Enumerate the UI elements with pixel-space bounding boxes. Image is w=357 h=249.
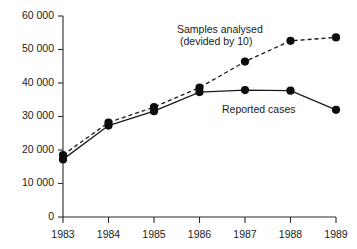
data-point: [286, 37, 294, 45]
series-line-reported-cases: [63, 90, 336, 159]
data-point: [241, 57, 249, 65]
x-tick-label-1989: 1989: [324, 228, 348, 240]
y-tick-label-50000: 50 000: [22, 42, 54, 54]
samples-annotation: Samples analysed (devided by 10): [177, 23, 263, 47]
x-tick-label-1988: 1988: [279, 228, 303, 240]
line-chart: 0 10 000 20 000 30 000 40 000 50 000 60 …: [0, 0, 357, 249]
data-point: [286, 87, 294, 95]
y-tick-group: [58, 16, 63, 217]
reported-annotation-line1: Reported cases: [222, 103, 296, 115]
x-tick-label-1986: 1986: [188, 228, 212, 240]
x-tick-labels: 1983 1984 1985 1986 1987 1988 1989: [51, 228, 348, 240]
data-point: [195, 88, 203, 96]
x-tick-label-1984: 1984: [97, 228, 121, 240]
samples-annotation-line1: Samples analysed: [177, 23, 263, 35]
x-tick-group: [63, 217, 336, 223]
reported-annotation: Reported cases: [222, 103, 296, 115]
x-tick-label-1987: 1987: [233, 228, 257, 240]
series-markers-reported-cases: [59, 86, 340, 164]
x-tick-label-1983: 1983: [51, 228, 75, 240]
data-point: [104, 121, 112, 129]
series-line-samples-analysed: [63, 37, 336, 155]
data-point: [241, 86, 249, 94]
x-tick-label-1985: 1985: [142, 228, 166, 240]
data-point: [150, 107, 158, 115]
y-tick-label-0: 0: [48, 210, 54, 222]
data-point: [332, 33, 340, 41]
data-point: [59, 155, 67, 163]
samples-annotation-line2: (devided by 10): [180, 35, 252, 47]
data-point: [332, 106, 340, 114]
y-tick-label-40000: 40 000: [22, 76, 54, 88]
y-tick-labels: 0 10 000 20 000 30 000 40 000 50 000 60 …: [22, 9, 54, 222]
y-tick-label-30000: 30 000: [22, 109, 54, 121]
chart-canvas: 0 10 000 20 000 30 000 40 000 50 000 60 …: [0, 0, 357, 249]
y-tick-label-20000: 20 000: [22, 143, 54, 155]
y-tick-label-10000: 10 000: [22, 176, 54, 188]
series-markers-samples-analysed: [59, 33, 340, 159]
y-tick-label-60000: 60 000: [22, 9, 54, 21]
